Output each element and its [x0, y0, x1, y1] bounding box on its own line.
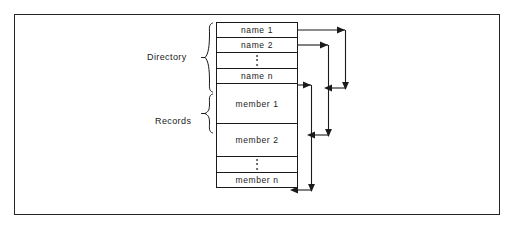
- record-entry-member-n: member n: [217, 173, 297, 188]
- record-entry-member-1: member 1: [217, 84, 297, 124]
- directory-ellipsis-row: ⋮: [217, 53, 297, 69]
- figure-root: Directory Records name 1 name 2 ⋮ name n…: [0, 0, 514, 229]
- directory-group-label: Directory: [147, 52, 187, 62]
- directory-entry-name-n: name n: [217, 69, 297, 84]
- storage-block-table: name 1 name 2 ⋮ name n member 1 member 2…: [216, 22, 298, 188]
- vertical-ellipsis-icon: ⋮: [251, 54, 263, 66]
- directory-entry-name-1: name 1: [217, 23, 297, 38]
- directory-entry-name-2: name 2: [217, 38, 297, 53]
- record-ellipsis-row: ⋮: [217, 157, 297, 173]
- record-entry-member-2: member 2: [217, 124, 297, 157]
- vertical-ellipsis-icon: ⋮: [251, 158, 263, 170]
- records-group-label: Records: [155, 116, 191, 126]
